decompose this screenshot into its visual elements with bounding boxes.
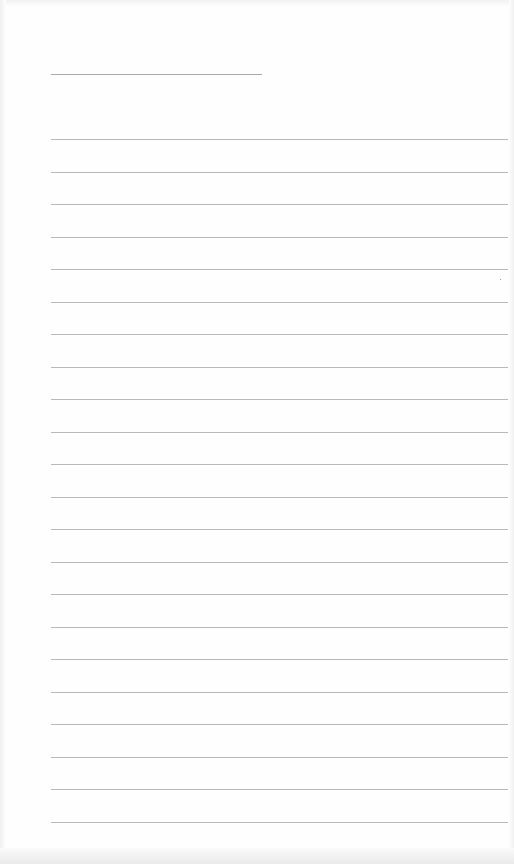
ruled-line [51, 822, 508, 823]
scan-edge-right [509, 0, 514, 864]
ruled-line [51, 139, 508, 140]
ruled-line [51, 367, 508, 368]
ruled-line [51, 237, 508, 238]
scan-edge-top [0, 0, 514, 6]
ruled-line [51, 659, 508, 660]
scan-edge-left [0, 0, 6, 864]
ruled-line [51, 334, 508, 335]
ruled-line [51, 172, 508, 173]
scan-edge-bottom [0, 848, 514, 864]
paper-speck [500, 279, 501, 280]
ruled-line [51, 432, 508, 433]
ruled-line [51, 302, 508, 303]
ruled-line [51, 692, 508, 693]
notebook-page [0, 0, 514, 864]
ruled-line [51, 757, 508, 758]
ruled-line [51, 627, 508, 628]
ruled-line [51, 204, 508, 205]
ruled-line [51, 269, 508, 270]
ruled-line [51, 594, 508, 595]
header-line [51, 74, 262, 75]
ruled-line [51, 724, 508, 725]
ruled-line [51, 562, 508, 563]
ruled-line [51, 789, 508, 790]
ruled-line [51, 497, 508, 498]
ruled-line [51, 529, 508, 530]
ruled-line [51, 464, 508, 465]
ruled-line [51, 399, 508, 400]
